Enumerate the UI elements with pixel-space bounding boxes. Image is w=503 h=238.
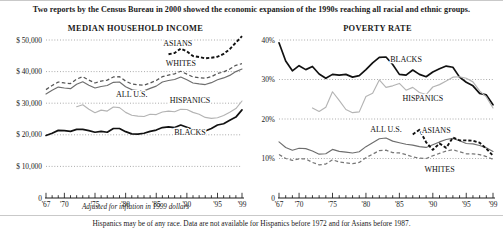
series-label-asians: ASIANS	[422, 126, 451, 135]
series-label-hispanics: HISPANICS	[170, 96, 211, 105]
x-tick-label: '90	[428, 200, 437, 209]
series-label-blacks: BLACKS	[174, 128, 206, 137]
y-tick-label: 30%	[261, 75, 275, 84]
x-tick-label: '67	[275, 200, 284, 209]
series-label-hispanics: HISPANICS	[402, 94, 443, 103]
bottom-divider	[0, 215, 503, 216]
x-tick-label: '75	[328, 200, 337, 209]
census-figure: Two reports by the Census Bureau in 2000…	[0, 0, 503, 238]
income-axis-note: Adjusted for inflation in 1999 dollars	[28, 203, 243, 211]
y-tick-label: $ 50,000	[16, 36, 42, 45]
series-line-blacks	[46, 110, 242, 136]
series-line-whites	[279, 150, 493, 165]
y-tick-label: $ 30,000	[16, 99, 42, 108]
x-tick-label: '70	[295, 200, 304, 209]
figure-footnote: Hispanics may be of any race. Data are n…	[0, 219, 503, 228]
median-household-income-chart: 0$ 10,000$ 20,000$ 30,000$ 40,000$ 50,00…	[0, 34, 248, 216]
series-label-whites: WHITES	[424, 165, 454, 174]
poverty-rate-chart: 010%20%30%40%'67'70'75'80'85'90'95'99BLA…	[248, 34, 503, 216]
y-tick-label: $ 10,000	[16, 162, 42, 171]
x-tick-label: '80	[362, 200, 371, 209]
x-tick-label: '99	[489, 200, 498, 209]
series-label-whites: WHITES	[166, 59, 196, 68]
y-tick-label: 10%	[261, 154, 275, 163]
series-label-all-u-s: ALL U.S.	[370, 125, 401, 134]
y-tick-label: 40%	[261, 36, 275, 45]
top-divider	[0, 0, 503, 1]
series-label-all-u-s: ALL U.S.	[116, 90, 147, 99]
x-tick-label: '85	[395, 200, 404, 209]
x-tick-label: '95	[462, 200, 471, 209]
y-tick-label: $ 20,000	[16, 130, 42, 139]
y-tick-label: $ 40,000	[16, 67, 42, 76]
series-label-asians: ASIANS	[163, 39, 192, 48]
y-tick-label: 20%	[261, 115, 275, 124]
income-panel-title: MEDIAN HOUSEHOLD INCOME	[28, 24, 243, 33]
series-line-blacks	[279, 43, 493, 105]
series-label-blacks: BLACKS	[390, 55, 422, 64]
figure-headline: Two reports by the Census Bureau in 2000…	[0, 5, 503, 14]
poverty-panel-title: POVERTY RATE	[270, 24, 485, 33]
